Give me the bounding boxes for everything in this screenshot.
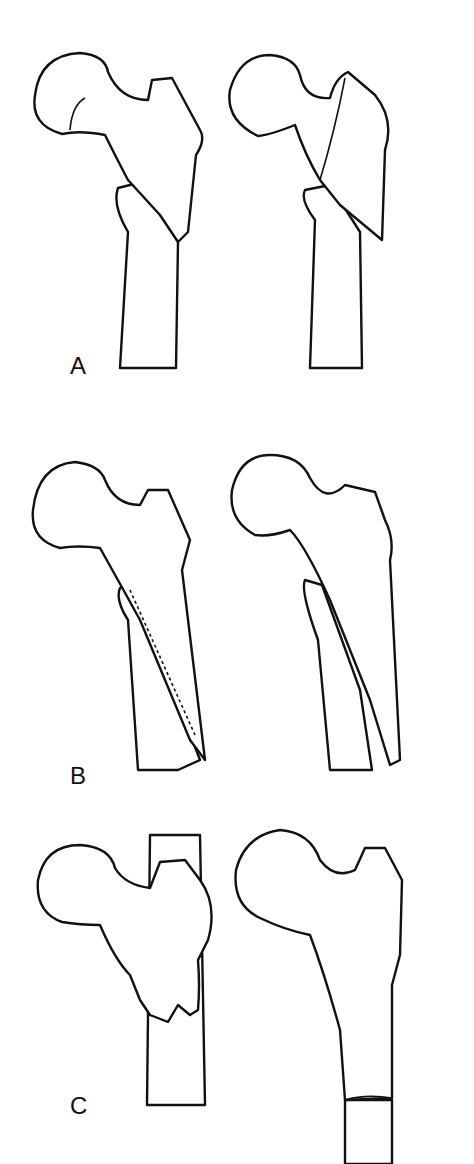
- panel-b-left-femur: [33, 462, 205, 770]
- panel-b-right-femur: [231, 455, 400, 770]
- panel-label-b: B: [70, 762, 86, 790]
- panel-a-right-femur: [229, 55, 388, 368]
- panel-a-left-femur: [34, 53, 202, 368]
- panel-c-left-femur: [38, 835, 212, 1105]
- panel-label-a: A: [70, 352, 86, 380]
- panel-c-right-femur: [236, 830, 403, 1164]
- panel-label-c: C: [70, 1092, 87, 1120]
- femur-illustration: [0, 0, 474, 1164]
